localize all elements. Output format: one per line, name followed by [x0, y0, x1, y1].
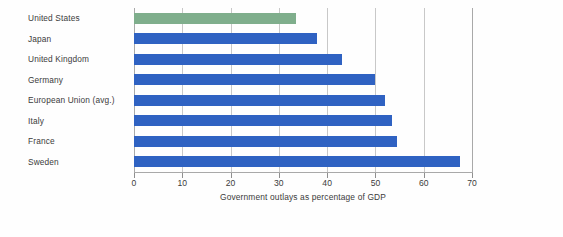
category-label-japan: Japan: [28, 29, 120, 50]
category-label-united-kingdom: United Kingdom: [28, 49, 120, 70]
category-axis-labels: United StatesJapanUnited KingdomGermanyE…: [0, 8, 126, 172]
category-label-united-states: United States: [28, 8, 120, 29]
bar-row: [134, 111, 472, 132]
bar-united-kingdom: [134, 54, 342, 65]
bar-germany: [134, 74, 375, 85]
bar-japan: [134, 33, 317, 44]
tick-label-0: 0: [114, 178, 154, 188]
category-label-european-union-avg: European Union (avg.): [28, 90, 120, 111]
tick-label-60: 60: [404, 178, 444, 188]
tick-label-30: 30: [259, 178, 299, 188]
bar-row: [134, 8, 472, 29]
value-axis-title: Government outlays as percentage of GDP: [134, 192, 472, 202]
bar-france: [134, 136, 397, 147]
bar-row: [134, 131, 472, 152]
bar-row: [134, 49, 472, 70]
bar-united-states: [134, 13, 296, 24]
category-label-sweden: Sweden: [28, 152, 120, 173]
bar-row: [134, 70, 472, 91]
tick-label-70: 70: [452, 178, 492, 188]
category-label-france: France: [28, 131, 120, 152]
category-label-germany: Germany: [28, 70, 120, 91]
bar-european-union-avg: [134, 95, 385, 106]
value-axis: 010203040506070: [134, 172, 472, 192]
bar-row: [134, 29, 472, 50]
bar-row: [134, 152, 472, 173]
bar-italy: [134, 115, 392, 126]
bar-chart-figure: United StatesJapanUnited KingdomGermanyE…: [0, 0, 563, 237]
plot-area: [134, 8, 472, 172]
bar-row: [134, 90, 472, 111]
category-label-italy: Italy: [28, 111, 120, 132]
bar-sweden: [134, 156, 460, 167]
value-axis-line: [134, 172, 473, 173]
tick-label-20: 20: [211, 178, 251, 188]
tick-label-40: 40: [307, 178, 347, 188]
gridline-70: [472, 8, 473, 172]
tick-label-50: 50: [355, 178, 395, 188]
tick-label-10: 10: [162, 178, 202, 188]
